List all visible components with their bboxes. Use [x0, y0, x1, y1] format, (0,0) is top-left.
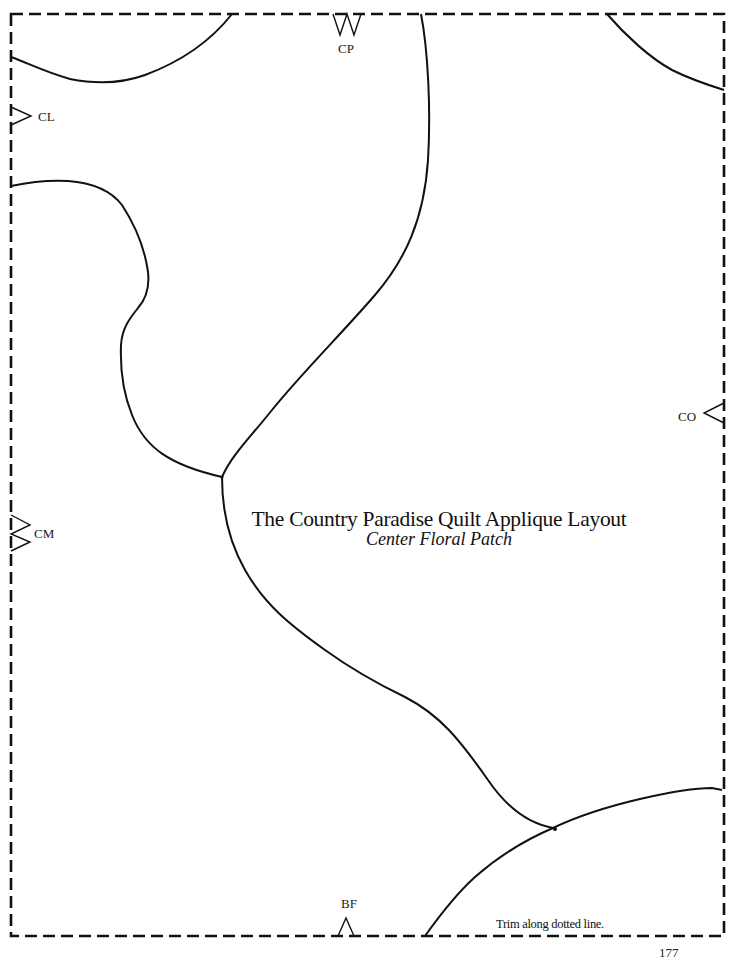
junction-point-left [220, 475, 223, 478]
bottom-right-arc [425, 788, 722, 936]
page-title: The Country Paradise Quilt Applique Layo… [200, 508, 640, 531]
page-subtitle: Center Floral Patch [200, 530, 640, 550]
trim-instruction: Trim along dotted line. [496, 918, 604, 931]
title-block: The Country Paradise Quilt Applique Layo… [200, 508, 640, 549]
alignment-label-bf: BF [341, 897, 357, 910]
alignment-label-cl: CL [38, 110, 55, 123]
top-right-patch-curve [607, 14, 724, 90]
top-left-patch-curve [11, 14, 232, 82]
central-upper-curve [222, 14, 429, 477]
page-number: 177 [659, 946, 679, 959]
cl-notch-icon [11, 107, 31, 125]
alignment-label-cm: CM [34, 527, 54, 540]
alignment-label-cp: CP [338, 42, 354, 55]
cp-notch-icon [333, 14, 361, 35]
co-notch-icon [704, 403, 724, 423]
cm-notch-icon [11, 515, 30, 551]
bf-notch-icon [338, 918, 354, 936]
trim-border-dashed [11, 14, 724, 936]
alignment-label-co: CO [678, 410, 696, 423]
left-lobe-curve [11, 181, 222, 477]
junction-point-bottom [553, 827, 557, 831]
